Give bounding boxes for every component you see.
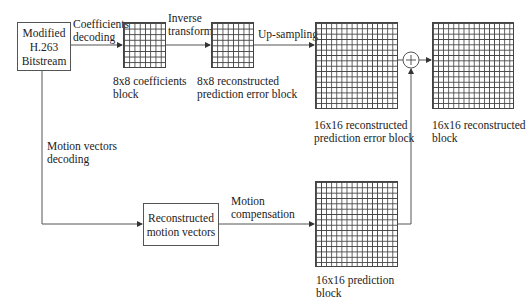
label-line: compensation [231,208,295,221]
caption-line: 8x8 reconstructed [197,75,297,88]
caption-line: prediction error block [197,88,297,101]
caption-line: 16x16 reconstructed [432,119,526,132]
bitstream-box: Modified H.263 Bitstream [17,22,71,71]
bitstream-line-1: Modified [22,26,67,40]
caption-line: block [113,88,187,101]
label-line: transform [168,25,213,38]
motion-vectors-line-2: motion vectors [147,225,216,239]
caption-line: block [432,132,526,145]
coefficients-8x8-grid [123,22,166,68]
label-line: Coefficients [73,18,129,31]
motion-vectors-decoding-label: Motion vectors decoding [47,140,117,166]
coefficients-decoding-label: Coefficients decoding [73,18,129,44]
label-line: Motion [231,195,295,208]
label-line: Motion vectors [47,140,117,153]
label-line: decoding [73,31,129,44]
reconstructed-16x16-grid [432,22,514,109]
label-line: Up-sampling [258,28,318,41]
bitstream-line-3: Bitstream [22,54,67,68]
bitstream-line-2: H.263 [22,40,67,54]
inverse-transform-label: Inverse transform [168,12,213,38]
prediction-16x16-caption: 16x16 prediction block [316,274,394,300]
reconstructed-16x16-caption: 16x16 reconstructed block [432,119,526,145]
caption-line: 8x8 coefficients [113,75,187,88]
prediction-16x16-grid [315,181,398,267]
coefficients-8x8-caption: 8x8 coefficients block [113,75,187,101]
motion-vectors-line-1: Reconstructed [147,211,216,225]
label-line: decoding [47,153,117,166]
recon-error-8x8-caption: 8x8 reconstructed prediction error block [197,75,297,101]
recon-error-16x16-caption: 16x16 reconstructed prediction error blo… [314,119,414,145]
motion-compensation-label: Motion compensation [231,195,295,221]
caption-line: prediction error block [314,132,414,145]
caption-line: 16x16 reconstructed [314,119,414,132]
adder-node [403,52,419,68]
motion-vectors-box: Reconstructed motion vectors [143,203,219,246]
recon-error-8x8-grid [211,22,254,68]
caption-line: 16x16 prediction [316,274,394,287]
up-sampling-label: Up-sampling [258,28,318,41]
recon-error-16x16-grid [315,22,398,109]
caption-line: block [316,287,394,300]
label-line: Inverse [168,12,213,25]
